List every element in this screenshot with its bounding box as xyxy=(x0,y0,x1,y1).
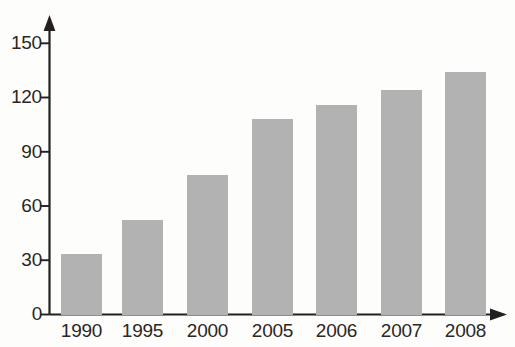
bar-2008 xyxy=(445,72,486,315)
x-tick-label-2006: 2006 xyxy=(306,320,367,342)
x-tick-label-1990: 1990 xyxy=(51,320,112,342)
bar-2007 xyxy=(381,90,422,315)
bar-chart: 0 30 60 90 120 150 1990 1995 2000 2005 2… xyxy=(0,0,515,347)
x-tick-label-1995: 1995 xyxy=(112,320,173,342)
y-tick-label-60: 60 xyxy=(6,195,42,217)
y-tick-label-150: 150 xyxy=(6,32,42,54)
y-axis-arrow-icon xyxy=(44,15,56,31)
bar-2006 xyxy=(316,105,357,315)
x-tick-label-2005: 2005 xyxy=(242,320,303,342)
y-tick-label-90: 90 xyxy=(6,141,42,163)
x-tick-label-2008: 2008 xyxy=(435,320,496,342)
y-tick-label-120: 120 xyxy=(6,86,42,108)
y-tick-label-0: 0 xyxy=(6,303,42,325)
x-axis-arrow-icon xyxy=(490,309,507,321)
x-tick-label-2007: 2007 xyxy=(371,320,432,342)
y-tick-label-30: 30 xyxy=(6,249,42,271)
bar-1990 xyxy=(61,254,102,315)
x-tick-label-2000: 2000 xyxy=(177,320,238,342)
bar-2000 xyxy=(187,175,228,315)
bar-1995 xyxy=(122,220,163,315)
y-axis-ticks xyxy=(40,43,50,314)
bar-2005 xyxy=(252,119,293,315)
